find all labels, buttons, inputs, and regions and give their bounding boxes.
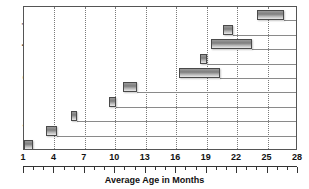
- minor-tick-14: [155, 167, 156, 170]
- x-tick-label-16: 16: [170, 152, 180, 162]
- x-axis-label: Average Age in Months: [0, 175, 309, 185]
- range-bar: [179, 68, 220, 78]
- row-baseline: [220, 78, 296, 79]
- row-baseline: [57, 136, 296, 137]
- major-tick-4: [53, 167, 54, 173]
- gridline-7: [85, 7, 86, 149]
- range-bar: [109, 97, 116, 107]
- major-tick-7: [84, 167, 85, 173]
- major-tick-28: [297, 167, 298, 173]
- minor-tick-3: [43, 167, 44, 170]
- minor-tick-12: [135, 167, 136, 170]
- minor-tick-26: [277, 167, 278, 170]
- minor-tick-9: [104, 167, 105, 170]
- major-tick-16: [175, 167, 176, 173]
- gridline-16: [176, 7, 177, 149]
- row-baseline: [284, 20, 296, 21]
- x-tick-label-4: 4: [51, 152, 56, 162]
- row-baseline: [137, 92, 296, 93]
- major-tick-13: [145, 167, 146, 173]
- x-axis-ruler: [23, 166, 297, 173]
- range-bar: [211, 39, 253, 49]
- minor-tick-2: [33, 167, 34, 170]
- minor-tick-15: [165, 167, 166, 170]
- major-tick-22: [236, 167, 237, 173]
- range-bar: [24, 140, 33, 150]
- x-tick-label-28: 28: [292, 152, 302, 162]
- minor-tick-5: [64, 167, 65, 170]
- gridline-10: [115, 7, 116, 149]
- x-tick-label-25: 25: [262, 152, 272, 162]
- x-tick-label-22: 22: [231, 152, 241, 162]
- gridline-13: [146, 7, 147, 149]
- minor-tick-20: [216, 167, 217, 170]
- x-tick-label-7: 7: [81, 152, 86, 162]
- range-bar: [200, 54, 207, 64]
- gridline-19: [207, 7, 208, 149]
- minor-tick-6: [74, 167, 75, 170]
- plot-area: [23, 6, 297, 150]
- row-baseline: [252, 49, 296, 50]
- minor-tick-27: [287, 167, 288, 170]
- row-baseline: [77, 121, 296, 122]
- x-axis-tick-labels: 14710131619222528: [0, 152, 309, 166]
- minor-tick-24: [256, 167, 257, 170]
- minor-tick-18: [196, 167, 197, 170]
- language-comprehension-chart: Language Comprehension 14710131619222528…: [0, 0, 309, 189]
- minor-tick-17: [185, 167, 186, 170]
- row-baseline: [233, 35, 296, 36]
- major-tick-25: [267, 167, 268, 173]
- range-bar: [223, 25, 233, 35]
- range-bar: [257, 10, 283, 20]
- minor-tick-21: [226, 167, 227, 170]
- x-tick-label-1: 1: [20, 152, 25, 162]
- minor-tick-23: [246, 167, 247, 170]
- range-bar: [71, 111, 77, 121]
- x-tick-label-10: 10: [109, 152, 119, 162]
- range-bar: [123, 82, 136, 92]
- row-baseline: [207, 64, 296, 65]
- major-tick-19: [206, 167, 207, 173]
- major-tick-10: [114, 167, 115, 173]
- x-tick-label-19: 19: [201, 152, 211, 162]
- row-baseline: [116, 107, 296, 108]
- range-bar: [46, 126, 57, 136]
- x-tick-label-13: 13: [140, 152, 150, 162]
- major-tick-1: [23, 167, 24, 173]
- minor-tick-8: [94, 167, 95, 170]
- minor-tick-11: [124, 167, 125, 170]
